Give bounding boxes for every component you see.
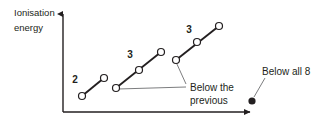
series-group-2: 2 (72, 74, 107, 100)
y-axis-label-line1: Ionisation (14, 7, 55, 18)
data-point (113, 85, 120, 92)
data-point (194, 39, 201, 46)
outlier-data-point (248, 97, 255, 104)
data-point (216, 23, 223, 30)
ionisation-energy-diagram: Ionisation energy 2 3 (0, 0, 320, 130)
annotation-below-previous-line2: previous (190, 95, 228, 106)
data-point (136, 67, 143, 74)
series-group-3-second: 3 (113, 49, 165, 92)
data-point (101, 75, 108, 82)
data-point (158, 49, 165, 56)
leader-line-previous-b (176, 62, 186, 84)
data-point (173, 57, 180, 64)
leader-line-previous-a (118, 87, 186, 89)
group-label-2: 2 (72, 74, 78, 85)
series-group-3-third: 3 (173, 23, 223, 64)
y-axis-label-line2: energy (14, 22, 43, 33)
data-point (79, 93, 86, 100)
group-label-3-second: 3 (127, 49, 133, 60)
annotation-below-all-8: Below all 8 (262, 66, 311, 77)
annotation-below-previous-line1: Below the (190, 82, 234, 93)
diagram-canvas: Ionisation energy 2 3 (0, 0, 320, 130)
series-segment (82, 78, 104, 96)
group-label-3-third: 3 (186, 24, 192, 35)
leader-line-below-all-8 (254, 78, 265, 97)
